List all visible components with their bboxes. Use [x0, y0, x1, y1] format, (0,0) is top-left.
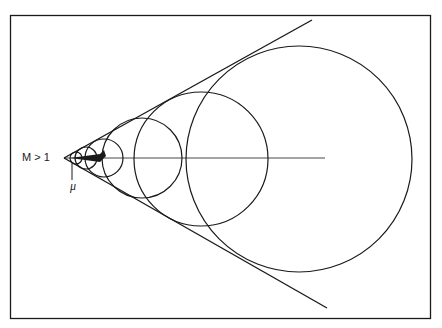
- wave-circle: [186, 46, 412, 272]
- wave-circles: [70, 46, 412, 272]
- wave-circle: [134, 92, 268, 226]
- mach-angle-label: μ: [70, 179, 76, 194]
- mach-number-label: M > 1: [22, 151, 50, 163]
- frame-border: [11, 16, 431, 319]
- mach-line-lower: [64, 158, 327, 308]
- mach-cone-diagram: [0, 0, 442, 328]
